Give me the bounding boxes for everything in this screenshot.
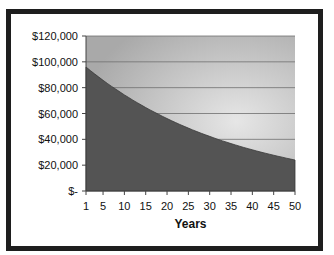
- chart-frame: $-$20,000$40,000$60,000$80,000$100,000$1…: [6, 9, 323, 251]
- y-tick-label: $20,000: [38, 159, 78, 171]
- y-tick-label: $120,000: [32, 30, 78, 42]
- x-tick-label: 20: [161, 200, 173, 212]
- x-tick-label: 45: [268, 200, 280, 212]
- x-axis-label: Years: [174, 217, 206, 231]
- x-tick-label: 15: [140, 200, 152, 212]
- y-tick-label: $-: [68, 185, 78, 197]
- y-tick-label: $80,000: [38, 82, 78, 94]
- y-axis-tick-labels: $-$20,000$40,000$60,000$80,000$100,000$1…: [32, 30, 78, 197]
- x-tick-label: 10: [118, 200, 130, 212]
- area-chart: $-$20,000$40,000$60,000$80,000$100,000$1…: [11, 14, 318, 246]
- x-tick-label: 25: [182, 200, 194, 212]
- x-tick-label: 35: [225, 200, 237, 212]
- x-tick-label: 30: [204, 200, 216, 212]
- x-tick-label: 50: [289, 200, 301, 212]
- x-tick-label: 5: [100, 200, 106, 212]
- x-axis-tick-labels: 15101520253035404550: [83, 200, 301, 212]
- y-tick-label: $100,000: [32, 56, 78, 68]
- y-tick-label: $60,000: [38, 108, 78, 120]
- x-tick-label: 40: [246, 200, 258, 212]
- y-tick-label: $40,000: [38, 133, 78, 145]
- x-tick-label: 1: [83, 200, 89, 212]
